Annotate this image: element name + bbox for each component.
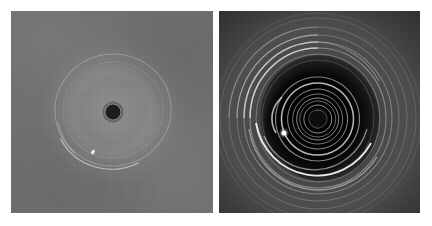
dark-occulting-disk xyxy=(106,105,121,120)
figure-container xyxy=(0,0,432,226)
panel-right[interactable] xyxy=(219,11,420,213)
panel-left[interactable] xyxy=(11,11,213,213)
dark-core xyxy=(311,111,325,125)
left-panel-vector-overlay xyxy=(11,11,213,213)
moonlet-glow xyxy=(280,129,289,138)
right-panel-vector-overlay xyxy=(219,11,420,213)
